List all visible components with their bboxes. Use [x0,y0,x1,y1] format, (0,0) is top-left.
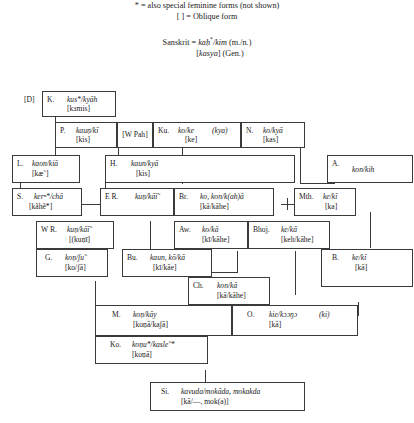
node-oblique-west-rajasthani: [(kuṇī] [69,235,90,245]
node-box-braj[interactable]: Br. ko, kon/k(ah)ā [kā/kāhe] [174,188,274,216]
connector-ko-si [205,370,206,382]
node-abbr-gujarati: G. [45,253,52,263]
node-box-oriya[interactable]: O. kie/kɔɔŋɔ (ki) [kā] [232,305,358,336]
connector-b-o [358,302,359,316]
node-oblique-nepali: [kas] [263,135,278,145]
node-oblique-kumaoni: [ke] [185,135,197,145]
node-box-nepali[interactable]: N. ko/kyā [kas] [241,122,305,148]
node-form-konkani: koṇu*/kasle˜* [132,340,175,350]
node-abbr-maithili: Mth. [299,192,314,202]
node-abbr-bundeli: Bu. [127,253,138,263]
node-abbr-panjabi: P. [60,126,65,136]
node-form-braj: ko, kon/k(ah)ā [200,192,244,202]
node-form-west-rajasthani: kuṇ/kāī˜ [67,225,92,235]
node-box-marathi[interactable]: M. koṇ/kāy [koṇā/kaʃā] [95,305,232,336]
connector-br-mth-v [287,198,288,210]
node-abbr-chhattisgarhi: Ch. [193,281,204,291]
connector-br-mth [281,204,295,205]
node-form-sinhala: kavuda/mokāda, mokakda [181,387,260,397]
node-oblique-sinhala: [kā/—, mok(a)] [181,397,229,407]
connector-a-b [370,212,371,248]
node-form-maithili: ke/kī [323,192,337,202]
node-abbr-assamese: A. [332,159,339,169]
node-abbr-konkani: Ko. [110,340,121,350]
node-box-lahnda[interactable]: L. kaon/kiā [kæ˜] [12,155,80,183]
node-abbr-hindi: H. [110,159,117,169]
node-box-hindi[interactable]: H. kaun/kyā [kis] [105,155,295,183]
node-oblique-chhattisgarhi: [kā/kāhe] [217,291,246,301]
node-box-west-rajasthani[interactable]: W R. kuṇ/kāī˜ [(kuṇī] [36,221,114,249]
node-box-east-rajasthani[interactable]: E R. kuṇ/kāī˜ [100,188,174,216]
root-tag-d: [D] [24,95,35,105]
node-form-awadhi: ko/kā [202,225,218,235]
node-oblique-lahnda: [kæ˜] [32,169,48,179]
node-abbr-oriya: O. [247,310,254,320]
node-oblique-kashmiri: [kɜmis] [67,104,90,114]
node-form-east-rajasthani: kuṇ/kāī˜ [135,192,160,202]
node-form-bengali: ke/kī [352,253,366,263]
node-box-chhattisgarhi[interactable]: Ch. kon/kā [kā/kāhe] [188,277,270,305]
node-box-sindhi[interactable]: S. kerⁿ*/chā [kãhẽ*] [12,188,82,216]
node-form-sindhi: kerⁿ*/chā [34,192,63,202]
node-form-chhattisgarhi: kon/kā [217,281,237,291]
node-oblique-hindi: [kis] [136,169,150,179]
node-oblique-braj: [kā/kāhe] [200,202,229,212]
node-oblique-marathi: [koṇā/kaʃā] [133,320,168,330]
node-oblique-oriya: [kā] [269,320,281,330]
node-box-awadhi[interactable]: Aw. ko/kā [kī/kāhe] [174,221,248,249]
node-oblique-bundeli: [kī/kāe] [153,263,177,273]
node-form-oriya: kie/kɔɔŋɔ [269,310,297,320]
node-abbr-sindhi: S. [17,192,23,202]
connector-er-bu [150,221,151,251]
node-form-bhojpuri: ke/kā [281,225,297,235]
node-abbr-east-rajasthani: E R. [105,192,119,202]
node-oblique-maithili: [ka] [325,202,337,212]
connector-bhoj-down [295,251,296,295]
node-box-bundeli[interactable]: Bu. kaun, kō/kā [kī/kāe] [122,249,212,277]
node-abbr-sinhala: Si. [161,387,169,397]
node-oblique-bengali: [kā] [355,263,367,273]
connector-bu-m [95,281,96,305]
connector-n-a-h [300,183,335,184]
node-paren-oriya: (ki) [319,310,330,320]
node-oblique-panjabi: [kis] [76,135,90,145]
node-oblique-gujarati: [ko/ʃā] [65,263,86,273]
connector-aw-ch [237,251,238,273]
node-form-gujarati: koṇ/ʃu˜ [65,253,87,263]
node-oblique-sindhi: [kãhẽ*] [29,202,52,212]
node-abbr-kumaoni: Ku. [158,126,169,136]
node-box-bhojpuri[interactable]: Bhoj. ke/kā [keh/kāhe] [248,221,330,249]
node-box-kumaoni[interactable]: Ku. ko/ke (kya) [ke] [153,122,241,148]
node-form-hindi: kaun/kyā [131,159,158,169]
node-abbr-bengali: B. [332,253,339,263]
node-box-bengali[interactable]: B. ke/kī [kā] [321,249,413,287]
node-abbr-kashmiri: K. [47,95,54,105]
connector-n-a [300,148,301,184]
node-oblique-awadhi: [kī/kāhe] [202,235,229,245]
node-abbr-lahnda: L. [17,159,24,169]
node-box-west-pahari[interactable]: [W Pah] [117,122,153,148]
node-oblique-bhojpuri: [keh/kāhe] [281,235,313,245]
node-abbr-awadhi: Aw. [179,225,191,235]
node-form-lahnda: kaon/kiā [32,159,58,169]
node-form-assamese: kon/kih [352,165,374,175]
node-abbr-nepali: N. [246,126,253,136]
node-box-konkani[interactable]: Ko. koṇu*/kasle˜* [koṇā] [95,336,208,364]
language-tree-diagram: [D] K. kus*/kyāh [kɜmis] P. kauṇ/kī [kis… [0,0,414,423]
node-form-marathi: koṇ/kāy [133,310,157,320]
node-box-panjabi[interactable]: P. kauṇ/kī [kis] [55,122,117,148]
node-box-assamese[interactable]: A. kon/kih [327,155,413,183]
node-paren-kumaoni: (kya) [212,126,228,136]
node-box-maithili[interactable]: Mth. ke/kī [ka] [294,188,356,216]
node-form-bundeli: kaun, kō/kā [150,253,185,263]
node-abbr-marathi: M. [112,310,121,320]
connector-s-er [82,204,100,205]
node-box-gujarati[interactable]: G. koṇ/ʃu˜ [ko/ʃā] [36,249,108,277]
node-box-sinhala[interactable]: Si. kavuda/mokāda, mokakda [kā/—, mok(a)… [150,382,305,411]
node-abbr-braj: Br. [179,192,188,202]
node-oblique-konkani: [koṇā] [132,350,152,360]
node-abbr-west-rajasthani: W R. [41,225,57,235]
node-abbr-bhojpuri: Bhoj. [253,225,270,235]
node-box-kashmiri[interactable]: K. kus*/kyāh [kɜmis] [42,91,116,117]
